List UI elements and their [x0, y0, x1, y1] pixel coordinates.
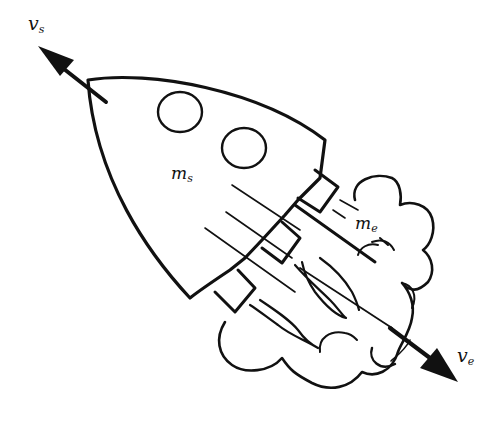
porthole-2 — [222, 128, 266, 168]
label-subscript: e — [468, 355, 475, 368]
label-base: m — [355, 213, 371, 233]
label-subscript: e — [371, 222, 378, 235]
label-base: m — [171, 163, 187, 183]
label-subscript: s — [39, 23, 45, 36]
porthole-1 — [158, 92, 202, 132]
label-ship-mass: ms — [171, 165, 193, 184]
label-exhaust-velocity: ve — [457, 346, 474, 367]
nozzle-middle — [262, 222, 300, 263]
nozzle-top — [298, 170, 338, 212]
label-exhaust-mass: me — [355, 215, 378, 234]
label-ship-velocity: vs — [28, 14, 44, 35]
rocket-hull — [88, 78, 325, 299]
ship-velocity-arrow — [38, 46, 106, 102]
rocket-diagram — [0, 0, 499, 427]
label-subscript: s — [187, 172, 193, 185]
label-base: v — [457, 344, 468, 366]
portholes — [158, 92, 266, 168]
label-base: v — [28, 12, 39, 34]
